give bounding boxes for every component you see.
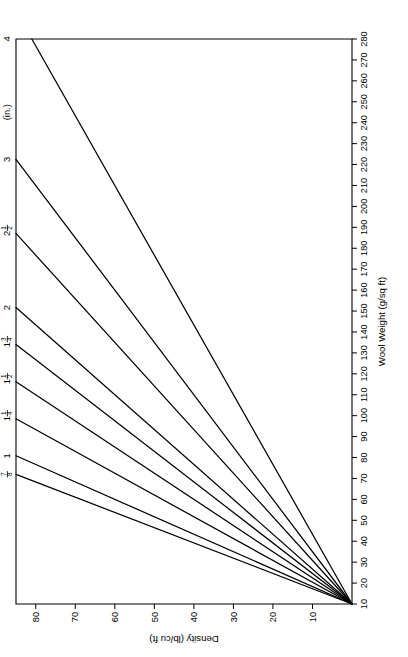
x-tick-label: 160 — [359, 282, 369, 297]
thickness-ray-label: 114 — [0, 410, 13, 421]
x-tick-label: 110 — [359, 387, 369, 402]
thickness-label-denominator: 8 — [6, 472, 13, 476]
x-tick-label: 190 — [359, 220, 369, 235]
thickness-label-whole: 2 — [1, 231, 12, 236]
x-tick-label: 70 — [359, 473, 369, 483]
y-tick-label: 80 — [31, 612, 41, 622]
chart-canvas: 1020304050607080901001101201301401501601… — [0, 0, 408, 657]
x-tick-label: 240 — [359, 115, 369, 130]
x-tick-label: 100 — [359, 408, 369, 423]
x-tick-label: 130 — [359, 345, 369, 360]
y-tick-label: 50 — [150, 612, 160, 622]
thickness-ray — [16, 456, 352, 604]
thickness-ray — [16, 382, 352, 604]
thickness-ray-label: 4 — [1, 36, 12, 41]
thickness-label-denominator: 4 — [6, 337, 13, 341]
y-tick-label: 40 — [189, 612, 199, 622]
x-tick-label: 50 — [359, 515, 369, 525]
y-axis-title: Density (lb/cu ft) — [149, 634, 218, 645]
thickness-label-denominator: 2 — [6, 374, 13, 378]
x-tick-label: 250 — [359, 94, 369, 109]
thickness-ray — [16, 474, 352, 604]
x-tick-label: 90 — [359, 431, 369, 441]
y-tick-label: 20 — [268, 612, 278, 622]
thickness-label-whole: 4 — [1, 36, 12, 41]
thickness-ray — [16, 233, 352, 604]
x-tick-label: 180 — [359, 241, 369, 256]
thickness-units-label: (in.) — [1, 104, 12, 120]
thickness-ray-label: 78 — [0, 471, 13, 477]
thickness-ray-label: 1 — [1, 453, 12, 458]
thickness-ray-label: 2 — [1, 305, 12, 310]
x-tick-label: 30 — [359, 557, 369, 567]
thickness-label-whole: 2 — [1, 305, 12, 310]
y-axis-title-text: Density (lb/cu ft) — [149, 634, 218, 645]
x-tick-label: 200 — [359, 199, 369, 214]
y-axis: 1020304050607080Density (lb/cu ft) — [31, 604, 318, 645]
x-tick-label: 80 — [359, 452, 369, 462]
x-tick-label: 40 — [359, 536, 369, 546]
x-tick-label: 20 — [359, 578, 369, 588]
x-axis-title: Wool Weight (g/sq ft) — [376, 277, 387, 366]
x-axis: 1020304050607080901001101201301401501601… — [352, 31, 387, 609]
thickness-ray — [16, 419, 352, 604]
y-tick-label: 10 — [308, 612, 318, 622]
thickness-ray — [32, 39, 352, 604]
x-tick-label: 60 — [359, 494, 369, 504]
plot-frame — [16, 39, 352, 604]
thickness-label-whole: 1 — [1, 416, 12, 421]
y-tick-label: 60 — [110, 612, 120, 622]
thickness-ray-label: 3 — [1, 157, 12, 162]
x-tick-label: 230 — [359, 136, 369, 151]
thickness-ray-label: 212 — [0, 225, 13, 236]
thickness-label-whole: 1 — [1, 342, 12, 347]
thickness-label-denominator: 2 — [6, 226, 13, 230]
thickness-ray — [16, 345, 352, 604]
thickness-ray — [16, 308, 352, 604]
x-tick-label: 260 — [359, 73, 369, 88]
x-tick-label: 150 — [359, 303, 369, 318]
thickness-label-whole: 3 — [1, 157, 12, 162]
y-tick-label: 70 — [70, 612, 80, 622]
thickness-label-whole: 1 — [1, 379, 12, 384]
chart-svg: 1020304050607080901001101201301401501601… — [0, 0, 408, 657]
x-tick-label: 220 — [359, 157, 369, 172]
thickness-ray-label: 112 — [0, 373, 13, 384]
x-tick-label: 280 — [359, 31, 369, 46]
thickness-ray — [16, 159, 352, 604]
thickness-ray-label: 134 — [0, 336, 13, 347]
x-tick-label: 170 — [359, 262, 369, 277]
x-tick-label: 10 — [359, 599, 369, 609]
x-tick-label: 140 — [359, 324, 369, 339]
thickness-label-denominator: 4 — [6, 411, 13, 415]
thickness-label-whole: 1 — [1, 453, 12, 458]
x-tick-label: 210 — [359, 178, 369, 193]
rotated-chart-wrapper: 1020304050607080901001101201301401501601… — [0, 0, 408, 657]
thickness-rays: 781114112134221234 — [0, 36, 352, 604]
y-tick-label: 30 — [229, 612, 239, 622]
x-tick-label: 270 — [359, 52, 369, 67]
x-tick-label: 120 — [359, 366, 369, 381]
